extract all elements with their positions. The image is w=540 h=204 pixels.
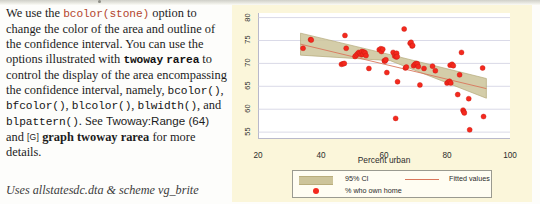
x-axis-title: Percent urban xyxy=(258,155,510,165)
figure-page: We use the bcolor(stone) option to chang… xyxy=(0,0,540,204)
y-tick-label: 75 xyxy=(243,33,252,47)
y-tick-label: 60 xyxy=(243,102,252,116)
code-blpattern: blpattern() xyxy=(6,116,79,128)
manual-ref-graph-twoway-rarea[interactable]: graph twoway rarea xyxy=(42,130,149,144)
manual-bracket-g: [G] xyxy=(27,132,39,142)
prose-seg-8: , and xyxy=(197,98,221,112)
code-rarea: rarea xyxy=(166,54,199,66)
y-tick-label: 55 xyxy=(243,125,252,139)
prose-seg-1: We use the xyxy=(6,6,63,20)
prose-seg-10: and xyxy=(6,130,27,144)
stata-graph-figure: 556065707580 20406080100 Percent urban 9… xyxy=(232,5,532,202)
legend-label-ci: 95% CI xyxy=(345,174,369,183)
ci-band xyxy=(301,33,487,98)
code-bcolor-stone: bcolor(stone) xyxy=(63,8,149,20)
code-twoway: twoway xyxy=(123,54,163,66)
legend-swatch-fitted xyxy=(405,179,439,180)
chart-legend: 95% CI Fitted values % who own home xyxy=(292,170,492,198)
legend-label-points: % who own home xyxy=(345,186,402,195)
prose-seg-5: , xyxy=(221,83,224,97)
legend-swatch-ci xyxy=(299,176,333,185)
figure-inner: 556065707580 20406080100 Percent urban 9… xyxy=(232,5,532,202)
scatter-plot-svg xyxy=(258,13,510,139)
plot-region: 556065707580 20406080100 xyxy=(258,13,510,139)
crossref-twoway-range[interactable]: Twoway:Range (64) xyxy=(106,114,209,127)
page-speck xyxy=(98,0,101,3)
explanatory-text: We use the bcolor(stone) option to chang… xyxy=(6,6,230,160)
y-tick-label: 70 xyxy=(243,56,252,70)
y-tick-label: 65 xyxy=(243,79,252,93)
code-blcolor: blcolor() xyxy=(72,100,132,112)
prose-seg-9: . See xyxy=(79,114,106,128)
legend-label-fitted: Fitted values xyxy=(449,174,490,183)
code-bcolor: bcolor() xyxy=(168,85,221,97)
y-tick-label: 80 xyxy=(243,10,252,24)
prose-paragraph: We use the bcolor(stone) option to chang… xyxy=(6,6,230,160)
legend-swatch-points xyxy=(313,188,319,194)
code-bfcolor: bfcolor() xyxy=(6,100,66,112)
uses-note: Uses allstatesdc.dta & scheme vg_brite xyxy=(6,183,238,198)
code-blwidth: blwidth() xyxy=(137,100,197,112)
